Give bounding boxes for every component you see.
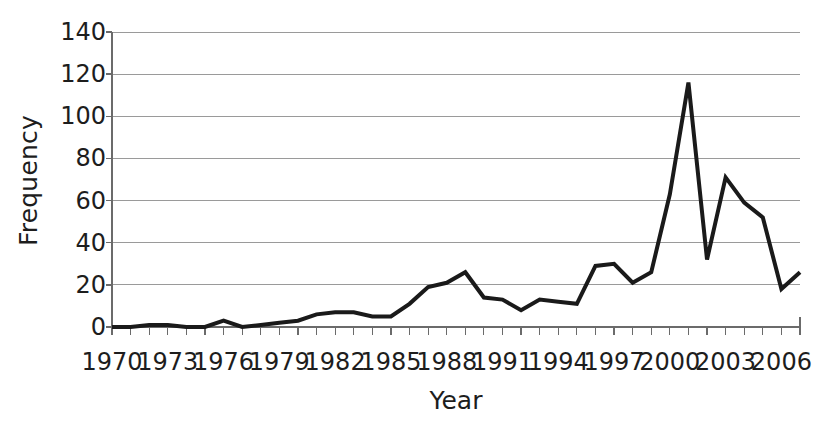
y-axis-title-label: Frequency xyxy=(14,115,43,246)
x-tick-label: 1979 xyxy=(239,348,319,376)
y-tick-label: 20 xyxy=(54,273,106,297)
y-tick-label: 0 xyxy=(54,315,106,339)
x-tick-label: 1982 xyxy=(295,348,375,376)
data-series-line xyxy=(112,83,800,327)
x-tick-label: 1973 xyxy=(128,348,208,376)
x-axis-title: Year xyxy=(112,386,800,416)
x-tick-label: 2000 xyxy=(630,348,710,376)
x-tick-label: 1997 xyxy=(574,348,654,376)
chart-figure: Frequency 020406080100120140 19701973197… xyxy=(0,0,821,440)
y-axis-ticks xyxy=(106,32,112,327)
y-tick-label: 120 xyxy=(54,62,106,86)
x-axis-ticks xyxy=(112,327,800,335)
x-tick-label: 2006 xyxy=(741,348,821,376)
y-tick-label: 100 xyxy=(54,104,106,128)
x-tick-label: 1976 xyxy=(184,348,264,376)
plot-area xyxy=(112,32,800,327)
y-tick-label: 40 xyxy=(54,231,106,255)
x-tick-label: 1991 xyxy=(462,348,542,376)
x-tick-label: 1985 xyxy=(351,348,431,376)
chart-plot-svg xyxy=(112,32,800,327)
y-tick-label: 80 xyxy=(54,146,106,170)
x-tick-label: 1970 xyxy=(72,348,152,376)
x-tick-label: 1994 xyxy=(518,348,598,376)
y-tick-label: 60 xyxy=(54,189,106,213)
x-tick-label: 1988 xyxy=(407,348,487,376)
y-tick-label: 140 xyxy=(54,20,106,44)
y-axis-title: Frequency xyxy=(0,0,56,360)
y-axis-tick-labels: 020406080100120140 xyxy=(50,0,106,440)
x-axis-tick-labels: 1970197319761979198219851988199119941997… xyxy=(0,348,821,382)
x-tick-label: 2003 xyxy=(686,348,766,376)
